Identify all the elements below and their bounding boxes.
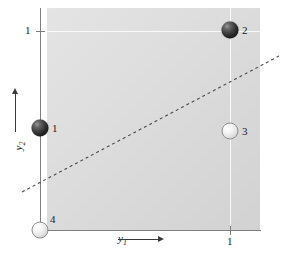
up-arrow-icon — [12, 88, 20, 132]
y-axis-title: y2 — [12, 142, 27, 151]
y-axis-tick-label-1: 1 — [25, 25, 31, 36]
y-axis-tick-1 — [36, 31, 45, 32]
data-point-label-2: 2 — [242, 25, 248, 36]
x-axis-tick-label-1: 1 — [227, 236, 233, 247]
data-point-label-4: 4 — [50, 214, 56, 225]
x-axis-title-group: y1 — [118, 236, 164, 243]
y-axis-title-base: y — [12, 146, 24, 151]
data-point-1[interactable] — [32, 120, 49, 137]
y-axis-title-subscript: 2 — [19, 142, 28, 146]
data-point-label-1: 1 — [52, 123, 58, 134]
gridline-vertical-x1 — [230, 8, 231, 230]
right-arrow-icon — [118, 236, 164, 243]
plot-background — [47, 8, 260, 230]
x-axis-tick-1 — [230, 226, 231, 235]
data-point-label-3: 3 — [242, 126, 248, 137]
data-point-2[interactable] — [222, 22, 239, 39]
data-point-4[interactable] — [32, 222, 49, 239]
xor-scatter-figure: 1 1 y1 y2 1 2 3 4 — [0, 0, 284, 258]
data-point-3[interactable] — [222, 123, 239, 140]
x-axis-line — [40, 230, 261, 231]
